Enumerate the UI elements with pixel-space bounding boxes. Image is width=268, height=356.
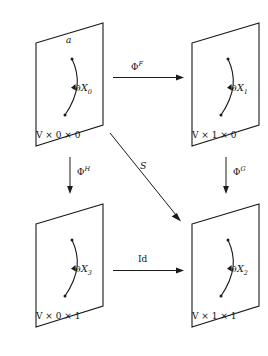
arrow-left-vertical xyxy=(67,157,73,194)
panel-top-left-arc-start-dot xyxy=(71,58,74,61)
arrow-label-sup-phi-f: F xyxy=(138,60,143,68)
commutative-diagram: a ∂X0 V × 0 × 0 ∂X1 V × 1 × 0 ∂X3 V × 0 … xyxy=(0,0,268,356)
panel-bottom-right-arc-end-dot xyxy=(220,295,223,298)
panel-top-right-arc-end-dot xyxy=(220,114,223,117)
arrow-left-vertical-label: ΦH xyxy=(77,166,90,177)
arrow-diagonal xyxy=(110,133,181,222)
panel-top-right-plane xyxy=(192,23,259,146)
panel-bottom-right-arc-start-dot xyxy=(227,239,230,242)
arrow-left-vertical-head xyxy=(67,186,73,194)
arrow-right-vertical-head xyxy=(223,186,229,194)
panel-top-left-coordinate-label: V × 0 × 0 xyxy=(36,131,80,140)
arrow-bottom-horizontal-label: Id xyxy=(138,255,147,264)
arrow-label-sup-phi-h: H xyxy=(84,165,90,173)
panel-top-right-coordinate-label: V × 1 × 0 xyxy=(192,131,236,140)
panel-bottom-right-boundary-label: ∂X2 xyxy=(232,264,248,276)
arrow-bottom-horizontal-head xyxy=(176,268,184,274)
panel-top-right-boundary-label: ∂X1 xyxy=(232,83,248,95)
arrow-label-sup-phi-g: G xyxy=(240,165,245,173)
panel-top-left-arc-end-dot xyxy=(64,114,67,117)
arrow-right-vertical xyxy=(223,157,229,194)
panel-bottom-right xyxy=(192,204,259,327)
panel-bottom-right-plane xyxy=(192,204,259,327)
arrow-diagonal-label: S xyxy=(140,161,147,171)
arrow-bottom-horizontal xyxy=(113,268,184,274)
panel-top-left-boundary-label: ∂X0 xyxy=(76,83,92,95)
boundary-symbol-2: ∂X xyxy=(232,263,244,274)
boundary-symbol-0: ∂X xyxy=(76,82,88,93)
boundary-symbol-3: ∂X xyxy=(76,263,88,274)
panel-top-right xyxy=(192,23,259,146)
panel-bottom-left-plane xyxy=(36,204,103,327)
boundary-subscript-1: 1 xyxy=(244,88,248,96)
panel-bottom-left-boundary-label: ∂X3 xyxy=(76,264,92,276)
panel-bottom-right-coordinate-label: V × 1 × 1 xyxy=(192,312,236,321)
arrow-top-horizontal-label: ΦF xyxy=(131,61,143,72)
panel-bottom-left-coordinate-label: V × 0 × 1 xyxy=(36,312,80,321)
panel-bottom-left-arc-start-dot xyxy=(71,239,74,242)
panel-top-right-arc-start-dot xyxy=(227,58,230,61)
arrow-diagonal-shaft xyxy=(110,133,176,215)
boundary-subscript-2: 2 xyxy=(244,269,248,277)
boundary-symbol-1: ∂X xyxy=(232,82,244,93)
panel-bottom-left xyxy=(36,204,103,327)
panel-bottom-left-arc-end-dot xyxy=(64,295,67,298)
arrow-diagonal-head xyxy=(172,213,181,222)
arrow-top-horizontal-head xyxy=(176,75,184,81)
arrow-top-horizontal xyxy=(113,75,184,81)
boundary-subscript-3: 3 xyxy=(88,269,92,277)
panel-top-left-point-label: a xyxy=(66,36,71,45)
diagram-canvas xyxy=(0,0,268,356)
boundary-subscript-0: 0 xyxy=(88,88,92,96)
arrow-right-vertical-label: ΦG xyxy=(233,166,246,177)
